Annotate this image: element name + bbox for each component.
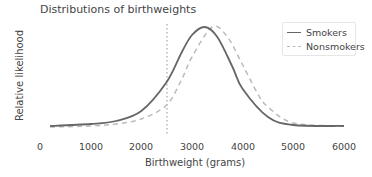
- x-tick: 6000: [332, 141, 356, 152]
- x-tick: 5000: [281, 141, 305, 152]
- legend-item-nonsmokers: Nonsmokers: [287, 40, 365, 52]
- x-tick: 0: [37, 141, 43, 152]
- x-tick: 4000: [231, 141, 255, 152]
- x-tick: 3000: [180, 141, 204, 152]
- legend-item-smokers: Smokers: [287, 26, 347, 38]
- x-tick: 1000: [79, 141, 103, 152]
- dashed-line-swatch-icon: [287, 46, 301, 47]
- x-tick: 2000: [129, 141, 153, 152]
- legend: Smokers Nonsmokers: [282, 22, 356, 56]
- legend-label: Nonsmokers: [306, 41, 365, 52]
- legend-label: Smokers: [306, 27, 347, 38]
- solid-line-swatch-icon: [287, 32, 301, 33]
- x-axis-label: Birthweight (grams): [140, 157, 250, 168]
